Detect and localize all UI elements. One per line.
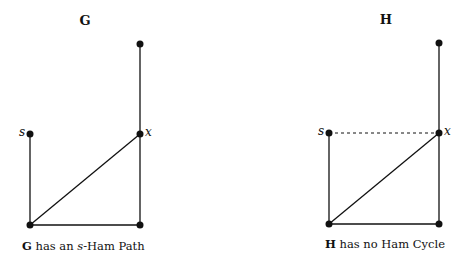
node-s bbox=[326, 130, 333, 137]
graph-canvas bbox=[0, 0, 465, 264]
graph-h-label-s: s bbox=[318, 124, 324, 138]
caption-graph-name: G bbox=[22, 239, 32, 253]
graph-h-caption: H has no Ham Cycle bbox=[325, 237, 445, 251]
caption-graph-name: H bbox=[325, 237, 336, 251]
graph-g-nodes bbox=[27, 41, 144, 229]
graph-h-title: H bbox=[380, 12, 392, 27]
graph-g bbox=[30, 44, 140, 225]
graph-g-title: G bbox=[79, 13, 90, 28]
node-bottom-right bbox=[436, 221, 443, 228]
caption-text-end: -Ham Path bbox=[83, 239, 144, 253]
edge-bottom-left-x bbox=[329, 133, 439, 224]
caption-text: has an bbox=[32, 239, 77, 253]
edge-bottom-left-x bbox=[30, 134, 140, 225]
node-top bbox=[137, 41, 144, 48]
graph-g-label-x: x bbox=[145, 125, 152, 139]
graph-h-label-x: x bbox=[444, 124, 451, 138]
node-bottom-left bbox=[27, 222, 34, 229]
node-top bbox=[436, 40, 443, 47]
graph-h bbox=[329, 43, 439, 224]
node-bottom-right bbox=[137, 222, 144, 229]
node-x bbox=[137, 131, 144, 138]
node-s bbox=[27, 131, 34, 138]
caption-text: has no Ham Cycle bbox=[336, 237, 445, 251]
graph-g-label-s: s bbox=[19, 125, 25, 139]
graph-g-caption: G has an s-Ham Path bbox=[22, 239, 145, 253]
node-bottom-left bbox=[326, 221, 333, 228]
node-x bbox=[436, 130, 443, 137]
